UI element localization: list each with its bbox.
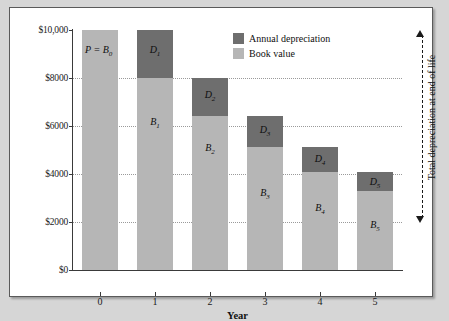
bar-year-3[interactable]: B3 D3 xyxy=(247,116,283,270)
bar-year-4[interactable]: B4 D4 xyxy=(302,147,338,270)
bar-segment-depreciation-2: D2 xyxy=(192,78,228,116)
y-axis-labels: $10,000 $8000 $6000 $4000 $2000 $0 xyxy=(10,8,68,298)
x-tick-label-0: 0 xyxy=(82,296,118,307)
bar-label-book-value-1: B1 xyxy=(137,116,173,130)
bar-year-0[interactable] xyxy=(82,30,118,270)
x-axis-title: Year xyxy=(73,310,402,321)
bar-segment-book-value-0 xyxy=(82,30,118,270)
y-tick-label-2000: $2000 xyxy=(10,217,68,227)
x-tick-label-5: 5 xyxy=(357,296,393,307)
legend-label-book-value: Book value xyxy=(249,48,295,59)
x-tick-label-4: 4 xyxy=(302,296,338,307)
bar-segment-book-value-1: B1 xyxy=(137,78,173,270)
x-tick-label-3: 3 xyxy=(247,296,283,307)
y-tickmark-6000 xyxy=(69,126,73,127)
gridline-6000 xyxy=(73,126,402,127)
bar-label-book-value-4: B4 xyxy=(302,202,338,216)
annotation-label: Total depreciation at end of life xyxy=(426,23,437,213)
y-tickmark-8000 xyxy=(69,78,73,79)
y-tick-label-4000: $4000 xyxy=(10,169,68,179)
bar-segment-book-value-5: B5 xyxy=(357,191,393,270)
y-tickmark-10000 xyxy=(69,30,73,31)
bar-year-1[interactable]: B1 D1 xyxy=(137,30,173,270)
bar-label-book-value-5: B5 xyxy=(357,219,393,233)
arrow-down-icon xyxy=(416,216,424,223)
bar-segment-depreciation-1: D1 xyxy=(137,30,173,78)
annotation-dashed-line xyxy=(422,35,423,218)
legend-label-annual-depreciation: Annual depreciation xyxy=(249,33,330,44)
bar-segment-depreciation-5: D5 xyxy=(357,172,393,192)
y-tick-label-8000: $8000 xyxy=(10,73,68,83)
x-axis-line xyxy=(72,270,403,271)
bar-label-depreciation-2: D2 xyxy=(192,89,228,103)
bar-label-depreciation-5: D5 xyxy=(357,176,393,190)
x-tick-label-1: 1 xyxy=(137,296,173,307)
bar-label-book-value-2: B2 xyxy=(192,142,228,156)
gridline-2000 xyxy=(73,222,402,223)
bar-label-book-value-3: B3 xyxy=(247,187,283,201)
bar-year-2[interactable]: B2 D2 xyxy=(192,78,228,270)
figure-frame: $10,000 $8000 $6000 $4000 $2000 $0 B1 xyxy=(9,7,433,297)
gridline-4000 xyxy=(73,174,402,175)
bar-segment-book-value-3: B3 xyxy=(247,147,283,270)
legend-item-annual-depreciation[interactable]: Annual depreciation xyxy=(233,32,330,45)
plot-area: B1 D1 B2 D2 B3 D3 B4 xyxy=(73,30,402,270)
bar-segment-depreciation-4: D4 xyxy=(302,147,338,172)
bar-segment-book-value-4: B4 xyxy=(302,172,338,270)
x-tick-label-2: 2 xyxy=(192,296,228,307)
y-tick-label-0: $0 xyxy=(10,265,68,275)
bar-year-5[interactable]: B5 D5 xyxy=(357,172,393,270)
bar-label-depreciation-4: D4 xyxy=(302,153,338,167)
legend: Annual depreciation Book value xyxy=(233,32,330,62)
bar-segment-depreciation-3: D3 xyxy=(247,116,283,147)
legend-item-book-value[interactable]: Book value xyxy=(233,47,330,60)
y-tickmark-2000 xyxy=(69,222,73,223)
y-tickmark-0 xyxy=(69,270,73,271)
bar-label-depreciation-1: D1 xyxy=(137,44,173,58)
y-tick-label-10000: $10,000 xyxy=(10,25,68,35)
purchase-price-callout: P = B0 xyxy=(85,44,112,58)
bar-segment-book-value-2: B2 xyxy=(192,116,228,270)
legend-swatch-book-value xyxy=(233,48,244,59)
gridline-8000 xyxy=(73,78,402,79)
legend-swatch-annual-depreciation xyxy=(233,33,244,44)
y-tick-label-6000: $6000 xyxy=(10,121,68,131)
y-tickmark-4000 xyxy=(69,174,73,175)
bar-label-depreciation-3: D3 xyxy=(247,124,283,138)
total-depreciation-annotation: Total depreciation at end of life xyxy=(400,30,440,270)
